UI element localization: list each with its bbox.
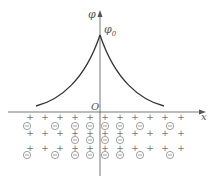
positive-charge: + bbox=[177, 143, 185, 153]
negative-charge-icon bbox=[101, 151, 108, 158]
negative-charge-icon bbox=[116, 151, 123, 158]
positive-charge: + bbox=[26, 112, 34, 122]
positive-charge: + bbox=[101, 112, 109, 122]
positive-charge: + bbox=[161, 112, 169, 122]
negative-charge-icon bbox=[23, 151, 30, 158]
positive-charge: + bbox=[131, 112, 139, 122]
potential-curve-right bbox=[100, 35, 164, 106]
charge-grid: +++++++++++++++++++++++++++++++++ bbox=[23, 112, 184, 159]
negative-charge-icon bbox=[86, 151, 93, 158]
positive-charge: + bbox=[71, 112, 79, 122]
positive-charge: + bbox=[146, 143, 154, 153]
positive-charge: + bbox=[146, 128, 154, 138]
origin-label: O bbox=[91, 101, 99, 112]
positive-charge: + bbox=[177, 128, 185, 138]
positive-charge: + bbox=[161, 143, 169, 153]
y-axis-arrow-icon bbox=[98, 10, 103, 17]
negative-charge-icon bbox=[71, 151, 78, 158]
potential-diagram: φ x O φ0 +++++++++++++++++++++++++++++++… bbox=[0, 0, 212, 188]
negative-charge-icon bbox=[166, 151, 173, 158]
peak-label: φ0 bbox=[104, 23, 117, 38]
positive-charge: + bbox=[56, 143, 64, 153]
positive-charge: + bbox=[56, 112, 64, 122]
positive-charge: + bbox=[41, 128, 49, 138]
positive-charge: + bbox=[116, 112, 124, 122]
negative-charge-icon bbox=[136, 151, 143, 158]
positive-charge: + bbox=[177, 112, 185, 122]
potential-curve-left bbox=[36, 35, 100, 106]
y-axis-label: φ bbox=[88, 8, 96, 21]
positive-charge: + bbox=[131, 128, 139, 138]
positive-charge: + bbox=[131, 143, 139, 153]
negative-charge-icon bbox=[51, 151, 58, 158]
positive-charge: + bbox=[146, 112, 154, 122]
positive-charge: + bbox=[86, 112, 94, 122]
positive-charge: + bbox=[161, 128, 169, 138]
positive-charge: + bbox=[41, 112, 49, 122]
positive-charge: + bbox=[41, 143, 49, 153]
positive-charge: + bbox=[26, 128, 34, 138]
positive-charge: + bbox=[56, 128, 64, 138]
x-axis-label: x bbox=[201, 111, 207, 122]
